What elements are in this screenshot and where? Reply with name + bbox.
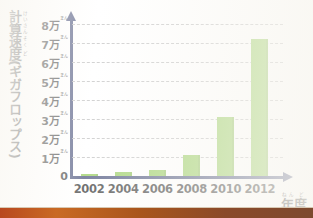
y-tick-unit: 万まん (49, 149, 68, 165)
bar-2010 (217, 117, 234, 176)
bar-chart-figure: 計けい算さん速そく度ど(ギガフロップス) 01万まん2万まん3万まん4万まん5万… (0, 0, 313, 218)
x-axis-line (70, 176, 284, 179)
y-tick-label: 2万まん (41, 130, 68, 146)
bar-2008 (183, 155, 200, 176)
y-axis-title-unit: (ギガフロップス) (7, 60, 22, 158)
page-bottom-strip (0, 207, 313, 218)
y-tick-unit: 万まん (49, 130, 68, 146)
bar-2006 (149, 170, 166, 176)
y-tick-unit: 万まん (49, 73, 68, 89)
y-tick-unit: 万まん (49, 35, 68, 51)
arrow-right-icon (283, 172, 293, 182)
y-axis-title: 計けい算さん速そく度ど(ギガフロップス) (4, 10, 30, 195)
bar-2004 (115, 172, 132, 176)
x-tick-label-2010: 2010 (210, 182, 241, 196)
y-tick-label: 0 (60, 171, 68, 182)
y-axis-title-char-1: 計けい (7, 10, 22, 23)
x-tick-label-2004: 2004 (108, 182, 139, 196)
x-tick-label-2002: 2002 (74, 182, 105, 196)
y-axis-title-text: 計けい算さん速そく度ど(ギガフロップス) (7, 10, 27, 158)
y-axis-title-char-4: 度ど (7, 48, 22, 61)
y-tick-label: 1万まん (41, 149, 68, 165)
x-tick-label-2006: 2006 (142, 182, 173, 196)
x-tick-label-2012: 2012 (245, 182, 276, 196)
y-tick-unit: 万まん (49, 111, 68, 127)
y-tick-label: 3万まん (41, 111, 68, 127)
x-tick-label-2008: 2008 (176, 182, 207, 196)
bar-2002 (81, 174, 98, 176)
y-tick-label: 5万まん (41, 73, 68, 89)
arrow-up-icon (66, 11, 76, 21)
y-tick-label: 8万まん (41, 16, 68, 32)
y-axis-tick-labels: 01万まん2万まん3万まん4万まん5万まん6万まん7万まん8万まん (30, 0, 68, 218)
bar-2012 (251, 39, 268, 176)
y-tick-unit: 万まん (49, 92, 68, 108)
y-tick-label: 6万まん (41, 54, 68, 70)
y-axis-title-char-3: 速そく (7, 35, 22, 48)
plot-area (72, 24, 277, 176)
y-axis-title-char-2: 算さん (7, 23, 22, 36)
gridline (72, 24, 283, 25)
y-tick-unit: 万まん (49, 54, 68, 70)
y-tick-label: 4万まん (41, 92, 68, 108)
y-tick-label: 7万まん (41, 35, 68, 51)
